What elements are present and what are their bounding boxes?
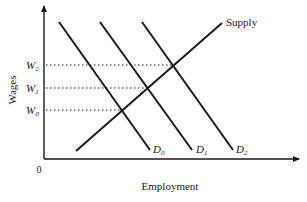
- origin-label: 0: [37, 164, 42, 175]
- labor-market-diagram: Supply D0 D1 D2 W2 W1 W0 Wages Employmen…: [0, 0, 307, 202]
- supply-curve: [76, 23, 222, 151]
- w1-label: W1: [26, 82, 39, 96]
- supply-label: Supply: [226, 16, 258, 28]
- x-axis-label: Employment: [142, 180, 199, 192]
- demand-curve-d1: [100, 22, 192, 150]
- d2-label: D2: [235, 143, 248, 157]
- y-axis-label: Wages: [6, 75, 18, 104]
- d0-label: D0: [152, 143, 165, 157]
- d1-label: D1: [195, 143, 207, 157]
- demand-curve-d2: [142, 22, 233, 150]
- w0-label: W0: [26, 104, 39, 118]
- w2-label: W2: [26, 59, 39, 73]
- demand-curve-d0: [59, 22, 150, 150]
